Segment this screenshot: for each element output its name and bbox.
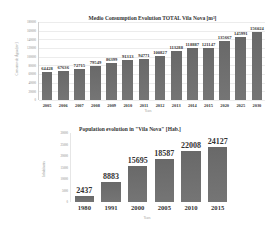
- consumption-chart-title: Medio Consumption Evolution TOTAL Vila N…: [40, 15, 265, 21]
- bar-fill: [187, 48, 198, 100]
- y-tick-label: 180000: [27, 20, 36, 24]
- bar-value-label: 91313: [122, 54, 133, 59]
- bar-fill: [208, 147, 227, 202]
- y-tick-label: 0: [35, 98, 37, 102]
- gridline: [39, 100, 265, 101]
- bar-value-label: 118887: [186, 42, 200, 47]
- bar-value-label: 18587: [154, 149, 174, 158]
- bar-fill: [101, 182, 120, 202]
- x-tick-label: 2015: [204, 103, 213, 108]
- y-tick-label: 160000: [27, 29, 36, 33]
- bar-2005: 18587: [155, 133, 174, 202]
- bar-2000: 15695: [128, 133, 147, 202]
- population-chart-ylabel: Inhabitants: [42, 154, 46, 184]
- bar-2015: 121147: [203, 22, 214, 100]
- bar-fill: [252, 32, 263, 100]
- bar-value-label: 24127: [208, 137, 228, 146]
- bar-value-label: 156024: [250, 26, 264, 31]
- x-tick-label: 2015: [211, 204, 224, 211]
- y-tick-label: 20000: [61, 154, 69, 158]
- bar-value-label: 8883: [103, 172, 119, 181]
- bar-value-label: 86399: [106, 57, 117, 62]
- x-tick-label: 2008: [91, 103, 100, 108]
- bar-2010: 22008: [181, 133, 200, 202]
- x-tick-label: 2014: [188, 103, 197, 108]
- x-tick-label: 2000: [131, 204, 144, 211]
- x-tick-label: 2013: [172, 103, 181, 108]
- y-tick-label: 15000: [61, 166, 69, 170]
- bar-2012: 100827: [155, 22, 166, 100]
- bar-2011: 94771: [139, 22, 150, 100]
- bar-fill: [235, 37, 246, 100]
- y-tick-label: 40000: [29, 81, 37, 85]
- bar-value-label: 64428: [41, 66, 52, 71]
- bar-2015: 24127: [208, 133, 227, 202]
- population-plot-area: 0500010000150002000025000300002437198088…: [70, 133, 231, 202]
- y-tick-label: 20000: [29, 90, 37, 94]
- bar-1980: 2437: [75, 133, 94, 202]
- gridline: [39, 57, 265, 58]
- x-tick-label: 1991: [104, 204, 117, 211]
- bar-fill: [128, 166, 147, 202]
- bar-2020: 135667: [219, 22, 230, 100]
- gridline: [39, 91, 265, 92]
- bar-fill: [106, 63, 117, 100]
- y-tick-label: 100000: [27, 55, 36, 59]
- consumption-chart-ylabel: Consumo de Água [m³]: [15, 34, 19, 84]
- population-chart-xlabel: Years: [144, 216, 151, 220]
- x-tick-label: 2005: [158, 204, 171, 211]
- bar-fill: [42, 72, 53, 100]
- bar-value-label: 22008: [181, 141, 201, 150]
- bar-2009: 86399: [106, 22, 117, 100]
- y-tick-label: 30000: [61, 131, 69, 135]
- bar-2005: 64428: [42, 22, 53, 100]
- bar-2007: 72715: [74, 22, 85, 100]
- y-tick-label: 60000: [29, 72, 37, 76]
- bar-2030: 156024: [252, 22, 263, 100]
- bar-2010: 91313: [122, 22, 133, 100]
- bar-fill: [122, 60, 133, 100]
- bar-value-label: 2437: [76, 186, 92, 195]
- bar-value-label: 135667: [218, 35, 232, 40]
- bar-value-label: 100827: [153, 50, 167, 55]
- x-tick-label: 2010: [123, 103, 132, 108]
- x-tick-label: 2009: [107, 103, 116, 108]
- bar-fill: [203, 48, 214, 100]
- x-tick-label: 2010: [184, 204, 197, 211]
- bar-value-label: 94771: [138, 53, 149, 58]
- bar-fill: [75, 196, 94, 202]
- y-tick-label: 120000: [27, 46, 36, 50]
- bar-value-label: 15695: [128, 156, 148, 165]
- x-tick-label: 1980: [78, 204, 91, 211]
- x-tick-label: 2006: [59, 103, 68, 108]
- bar-2014: 118887: [187, 22, 198, 100]
- consumption-chart-xlabel: Years: [145, 109, 152, 113]
- x-tick-label: 2030: [253, 103, 262, 108]
- y-tick-label: 0: [67, 200, 69, 204]
- consumption-chart: Medio Consumption Evolution TOTAL Vila N…: [0, 0, 269, 115]
- bar-fill: [58, 71, 69, 100]
- gridline: [39, 83, 265, 84]
- gridline: [39, 48, 265, 49]
- bar-2025: 145991: [235, 22, 246, 100]
- x-tick-label: 2007: [75, 103, 84, 108]
- y-tick-label: 5000: [62, 189, 68, 193]
- bar-fill: [171, 51, 182, 100]
- gridline: [39, 22, 265, 23]
- bar-value-label: 79549: [90, 60, 101, 65]
- bar-value-label: 145991: [234, 31, 248, 36]
- bar-1991: 8883: [101, 133, 120, 202]
- x-tick-label: 2011: [140, 103, 149, 108]
- x-tick-label: 2020: [220, 103, 229, 108]
- y-tick-label: 80000: [29, 64, 37, 68]
- x-tick-label: 2012: [156, 103, 165, 108]
- bar-value-label: 67636: [57, 65, 68, 70]
- bar-fill: [155, 56, 166, 100]
- bar-fill: [74, 69, 85, 101]
- population-chart-title: Population evolution in "Vila Nova" [Hab…: [75, 126, 185, 132]
- y-tick-label: 25000: [61, 143, 69, 147]
- bar-fill: [90, 66, 101, 100]
- y-tick-label: 140000: [27, 38, 36, 42]
- y-tick-label: 10000: [61, 177, 69, 181]
- bar-fill: [155, 159, 174, 202]
